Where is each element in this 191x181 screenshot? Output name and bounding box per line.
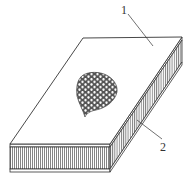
label-2: 2 (160, 140, 166, 154)
label-1: 1 (121, 3, 127, 17)
sandwich-panel-diagram: 1 2 (0, 0, 191, 181)
front-core-face (10, 144, 110, 172)
leader-line-2 (137, 120, 162, 139)
